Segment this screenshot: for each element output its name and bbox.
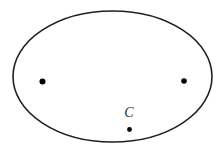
- ellipse-diagram-svg: [0, 0, 224, 159]
- right-point: [181, 78, 187, 84]
- label-c: C: [124, 106, 133, 120]
- ellipse-outline: [13, 11, 212, 142]
- left-point: [40, 79, 46, 85]
- figure-canvas: C: [0, 0, 224, 159]
- center-point-c: [127, 127, 132, 132]
